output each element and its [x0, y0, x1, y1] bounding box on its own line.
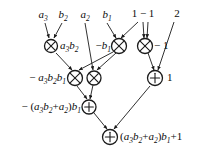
node-annotation-label: 1: [167, 72, 173, 83]
node-annotation-label: − (a3b2+a2)b1: [21, 101, 81, 112]
graph-edge: [90, 85, 93, 99]
node-annotation-label: −b1: [96, 40, 111, 51]
multiply-node: [87, 71, 101, 85]
node-annotation-label: (a3b2+a2)b1+1: [120, 131, 182, 142]
graph-edge: [54, 23, 62, 38]
graph-edge: [56, 53, 72, 70]
computation-graph-figure: a3b2a2b11 − 12a3b2−b1− 1− a3b2b11− (a3b2…: [0, 0, 202, 152]
add-node: [82, 100, 96, 114]
input-label: b2: [58, 9, 67, 20]
input-label: b1: [102, 9, 111, 20]
graph-edge: [77, 86, 87, 99]
graph-edge: [94, 113, 107, 129]
graph-edge: [147, 22, 148, 38]
input-label: 2: [174, 8, 180, 19]
graph-edge: [148, 53, 154, 70]
graph-edge: [121, 22, 138, 38]
node-annotation-label: a3b2: [60, 40, 79, 51]
input-label: a2: [80, 9, 89, 20]
graph-edge: [107, 23, 116, 38]
node-layer: [45, 39, 163, 145]
multiply-node: [138, 39, 153, 54]
add-node: [148, 71, 163, 86]
graph-edge: [79, 52, 113, 70]
add-node: [103, 130, 118, 145]
multiply-node: [112, 39, 127, 54]
input-label: 1 − 1: [132, 8, 155, 19]
input-label: a3: [38, 9, 47, 20]
node-annotation-label: − a3b2b1: [29, 72, 66, 83]
node-annotation-label: − 1: [154, 40, 168, 51]
multiply-node: [68, 71, 83, 86]
graph-edge: [45, 23, 49, 38]
graph-edge: [114, 86, 150, 129]
graph-edge: [143, 22, 144, 38]
multiply-node: [45, 40, 58, 53]
